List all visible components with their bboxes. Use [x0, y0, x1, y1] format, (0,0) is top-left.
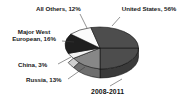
pie-label-major-west-european: Major West European, 16% — [5, 28, 63, 43]
pie-label-china: China, 3% — [18, 61, 47, 68]
chart-caption-period: 2008-2011 — [91, 88, 124, 95]
pie-chart-figure: United States, 56% All Others, 12% Major… — [0, 0, 182, 109]
pie-label-major-west-european-line1: Major West — [18, 28, 50, 35]
leader-line-caption — [110, 79, 122, 86]
pie-label-russia: Russia, 13% — [26, 76, 62, 83]
pie-label-major-west-european-line2: European, 16% — [12, 35, 56, 42]
leader-line-all-others — [80, 14, 87, 28]
pie-label-all-others: All Others, 12% — [36, 5, 81, 12]
pie-label-united-states: United States, 56% — [121, 5, 177, 12]
leader-line-united-states — [112, 17, 120, 26]
